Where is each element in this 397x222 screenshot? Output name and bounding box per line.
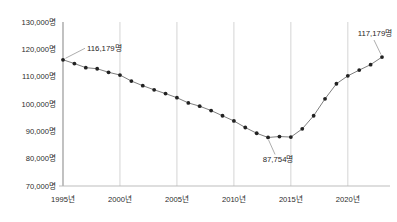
data-point	[323, 97, 327, 101]
x-tick-label-2020: 2020년	[336, 194, 360, 204]
line-chart: 70,000명80,000명90,000명100,000명110,000명120…	[0, 0, 397, 222]
y-tick-label-70000: 70,000명	[26, 181, 56, 191]
data-point	[255, 131, 259, 135]
data-point	[84, 66, 88, 70]
data-point	[232, 119, 236, 123]
data-point	[221, 114, 225, 118]
y-tick-label-100000: 100,000명	[22, 99, 56, 109]
data-point	[335, 82, 339, 86]
y-tick-label-80000: 80,000명	[26, 153, 56, 163]
data-point	[380, 55, 384, 59]
data-point	[141, 84, 145, 88]
data-point	[369, 63, 373, 67]
data-point	[118, 73, 122, 77]
series-polyline	[63, 57, 382, 137]
annotation-label: 117,179명	[358, 28, 393, 38]
data-point	[243, 126, 247, 130]
data-point	[61, 58, 65, 62]
data-point	[72, 62, 76, 66]
y-tick-label-90000: 90,000명	[26, 126, 56, 136]
x-tick-label-2015: 2015년	[279, 194, 303, 204]
data-point	[95, 67, 99, 71]
data-point	[209, 109, 213, 113]
data-point	[266, 136, 270, 140]
annotation-leader-line	[66, 48, 86, 58]
y-tick-label-120000: 120,000명	[22, 44, 56, 54]
data-point	[152, 88, 156, 92]
annotation-leader-line	[269, 140, 276, 155]
x-tick-label-2000: 2000년	[108, 194, 132, 204]
series-markers	[61, 55, 384, 139]
data-point	[186, 101, 190, 105]
y-tick-label-110000: 110,000명	[22, 71, 56, 81]
data-point	[129, 79, 133, 83]
x-axis-tick-labels: 1995년2000년2005년2010년2015년2020년	[51, 194, 360, 204]
data-point	[278, 135, 282, 139]
chart-canvas: 70,000명80,000명90,000명100,000명110,000명120…	[0, 0, 397, 222]
data-point	[164, 92, 168, 96]
x-tick-label-2005: 2005년	[165, 194, 189, 204]
x-tick-label-2010: 2010년	[222, 194, 246, 204]
annotation-leader-line	[374, 40, 381, 55]
data-annotations: 116,179명87,754명117,179명	[66, 28, 393, 164]
data-point	[198, 104, 202, 108]
data-point	[300, 127, 304, 131]
data-point	[175, 96, 179, 100]
data-point	[346, 74, 350, 78]
data-point	[357, 68, 361, 72]
annotation-label: 87,754명	[263, 154, 294, 164]
data-point	[312, 114, 316, 118]
data-point	[107, 70, 111, 74]
y-tick-label-130000: 130,000명	[22, 17, 56, 27]
series-line	[63, 57, 382, 137]
data-point	[289, 135, 293, 139]
x-tick-label-1995: 1995년	[51, 194, 75, 204]
annotation-label: 116,179명	[87, 43, 122, 53]
y-axis-tick-labels: 70,000명80,000명90,000명100,000명110,000명120…	[22, 17, 56, 191]
